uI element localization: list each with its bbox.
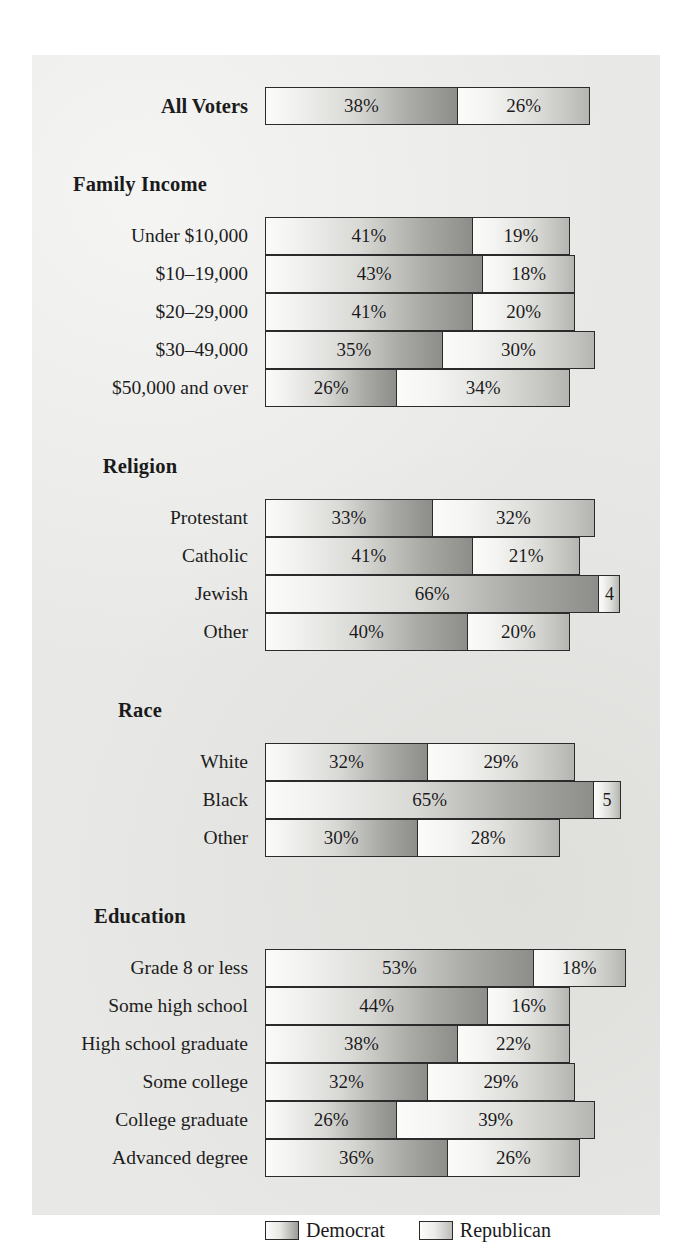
bar-segment-rep: 18% — [483, 256, 574, 292]
bar-value-label: 32% — [329, 751, 364, 773]
bar-value-label: 19% — [504, 225, 539, 247]
row-label: Other — [32, 819, 248, 857]
bar-value-label: 21% — [509, 545, 544, 567]
legend-label: Republican — [460, 1219, 551, 1242]
stacked-bar: 32%29% — [265, 743, 575, 781]
bar-segment-dem: 41% — [266, 538, 473, 574]
bar-value-label: 30% — [501, 339, 536, 361]
row-label: All Voters — [32, 87, 248, 125]
row-label: Other — [32, 613, 248, 651]
bar-value-label: 65% — [412, 789, 447, 811]
bar-value-label: 53% — [382, 957, 417, 979]
row-label: Protestant — [32, 499, 248, 537]
bar-value-label: 29% — [483, 1071, 518, 1093]
bar-value-label: 26% — [506, 95, 541, 117]
row-label: High school graduate — [32, 1025, 248, 1063]
group-header-religion: Religion — [32, 455, 248, 478]
bar-value-label: 38% — [344, 1033, 379, 1055]
bar-segment-rep: 34% — [397, 370, 569, 406]
bar-value-label: 30% — [324, 827, 359, 849]
bar-segment-dem: 43% — [266, 256, 483, 292]
bar-segment-rep: 26% — [458, 88, 589, 124]
bar-segment-dem: 65% — [266, 782, 594, 818]
stacked-bar: 33%32% — [265, 499, 595, 537]
bar-value-label: 33% — [331, 507, 366, 529]
legend-item-dem: Democrat — [265, 1219, 385, 1242]
row-label: Black — [32, 781, 248, 819]
bar-segment-dem: 26% — [266, 1102, 397, 1138]
bar-value-label: 29% — [483, 751, 518, 773]
bar-value-label: 35% — [336, 339, 371, 361]
bar-segment-dem: 35% — [266, 332, 443, 368]
bar-value-label: 22% — [496, 1033, 531, 1055]
bar-segment-dem: 32% — [266, 744, 428, 780]
bar-segment-dem: 36% — [266, 1140, 448, 1176]
bar-segment-dem: 33% — [266, 500, 433, 536]
row-label: $10–19,000 — [32, 255, 248, 293]
bar-segment-dem: 41% — [266, 218, 473, 254]
bar-value-label: 16% — [511, 995, 546, 1017]
stacked-bar: 35%30% — [265, 331, 595, 369]
bar-segment-rep: 20% — [468, 614, 569, 650]
row-label: $50,000 and over — [32, 369, 248, 407]
bar-segment-dem: 44% — [266, 988, 488, 1024]
bar-segment-dem: 66% — [266, 576, 599, 612]
stacked-bar: 44%16% — [265, 987, 570, 1025]
bar-value-label: 41% — [352, 225, 387, 247]
bar-value-label: 34% — [466, 377, 501, 399]
stacked-bar: 40%20% — [265, 613, 570, 651]
bar-segment-rep: 28% — [418, 820, 559, 856]
stacked-bar: 32%29% — [265, 1063, 575, 1101]
stacked-bar: 38%22% — [265, 1025, 570, 1063]
row-label: Some college — [32, 1063, 248, 1101]
row-label: $30–49,000 — [32, 331, 248, 369]
legend-item-rep: Republican — [419, 1219, 551, 1242]
bar-segment-dem: 41% — [266, 294, 473, 330]
stacked-bar: 41%19% — [265, 217, 570, 255]
bar-segment-dem: 26% — [266, 370, 397, 406]
bar-value-label: 20% — [501, 621, 536, 643]
bar-segment-rep: 21% — [473, 538, 579, 574]
legend-label: Democrat — [306, 1219, 385, 1242]
bar-segment-dem: 38% — [266, 1026, 458, 1062]
stacked-bar: 65%5 — [265, 781, 621, 819]
bar-value-label: 38% — [344, 95, 379, 117]
bar-segment-rep: 16% — [488, 988, 569, 1024]
chart-legend: DemocratRepublican — [265, 1219, 551, 1242]
bar-value-label: 26% — [314, 1109, 349, 1131]
row-label: Advanced degree — [32, 1139, 248, 1177]
stacked-bar: 41%21% — [265, 537, 580, 575]
row-label: College graduate — [32, 1101, 248, 1139]
row-label: Jewish — [32, 575, 248, 613]
bar-segment-rep: 4 — [599, 576, 619, 612]
bar-segment-rep: 22% — [458, 1026, 569, 1062]
stacked-bar: 43%18% — [265, 255, 575, 293]
bar-segment-dem: 38% — [266, 88, 458, 124]
bar-value-label: 32% — [496, 507, 531, 529]
group-header-family-income: Family Income — [32, 173, 248, 196]
bar-value-label: 32% — [329, 1071, 364, 1093]
group-header-education: Education — [32, 905, 248, 928]
bar-value-label: 26% — [496, 1147, 531, 1169]
row-label: Catholic — [32, 537, 248, 575]
bar-value-label: 36% — [339, 1147, 374, 1169]
bar-segment-dem: 40% — [266, 614, 468, 650]
legend-swatch-dem-icon — [265, 1221, 299, 1240]
bar-segment-rep: 39% — [397, 1102, 594, 1138]
bar-value-label: 39% — [478, 1109, 513, 1131]
legend-swatch-rep-icon — [419, 1221, 453, 1240]
row-label: White — [32, 743, 248, 781]
stacked-bar: 66%4 — [265, 575, 620, 613]
bar-value-label: 40% — [349, 621, 384, 643]
bar-value-label: 18% — [562, 957, 597, 979]
bar-value-label: 28% — [471, 827, 506, 849]
bar-segment-rep: 32% — [433, 500, 595, 536]
chart-panel: All Voters38%26%Family IncomeUnder $10,0… — [32, 55, 660, 1215]
stacked-bar: 41%20% — [265, 293, 575, 331]
bar-segment-rep: 18% — [534, 950, 625, 986]
row-label: Grade 8 or less — [32, 949, 248, 987]
row-label: Some high school — [32, 987, 248, 1025]
bar-segment-dem: 32% — [266, 1064, 428, 1100]
bar-segment-rep: 5 — [594, 782, 619, 818]
bar-value-label: 66% — [415, 583, 450, 605]
